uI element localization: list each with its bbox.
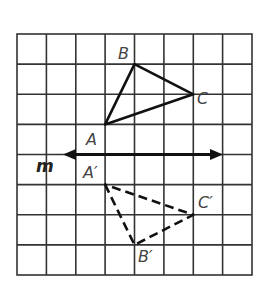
arrow-left-icon	[63, 149, 76, 160]
vertex-c-prime-label: C′	[198, 193, 213, 212]
arrow-right-icon	[210, 149, 223, 160]
vertex-a-prime-label: A′	[82, 163, 98, 182]
reflection-diagram: m B C A A′ C′ B′	[0, 0, 266, 297]
vertex-b-label: B	[118, 44, 129, 63]
line-m	[63, 149, 223, 160]
line-m-label: m	[36, 156, 54, 176]
vertex-b-prime-label: B′	[138, 247, 153, 266]
vertex-a-label: A	[85, 130, 97, 149]
vertex-c-label: C	[197, 89, 209, 108]
